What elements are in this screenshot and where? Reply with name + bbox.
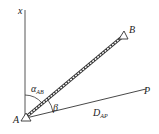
x-axis-label: x (17, 5, 23, 16)
beta-label: β (52, 102, 58, 113)
point-b-triangle-icon (119, 31, 128, 39)
azimuth-label: αAB (31, 83, 44, 95)
azimuth-arc (25, 95, 42, 103)
point-b-label: B (129, 24, 135, 35)
survey-diagram: x A B P αAB β DAP (0, 0, 159, 134)
distance-label: DAP (92, 107, 108, 119)
point-p-label: P (143, 85, 150, 96)
point-a-label: A (12, 114, 20, 125)
baseline-ab (26, 37, 122, 117)
